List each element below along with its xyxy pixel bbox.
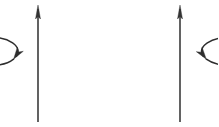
left-rotation-figure: [0, 5, 41, 122]
left-orbit-arc: [0, 37, 18, 65]
right-orbit-arc: [202, 37, 218, 65]
rotation-diagram-svg: [0, 0, 218, 127]
right-rotation-figure: [178, 5, 219, 122]
rotation-diagram-canvas: Rotation direction about a vertical axis: [0, 0, 218, 127]
